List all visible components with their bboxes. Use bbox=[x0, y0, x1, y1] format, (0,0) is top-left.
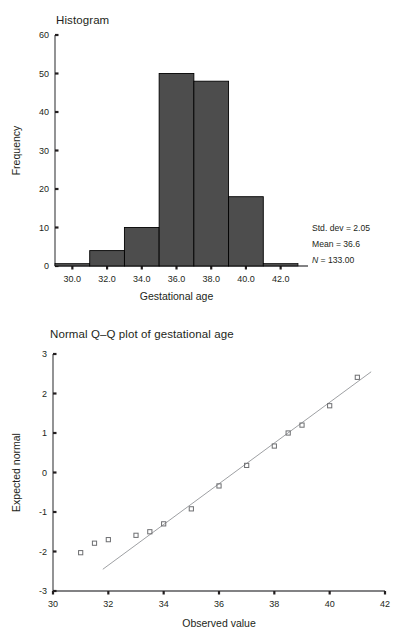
histogram-bar bbox=[159, 74, 194, 267]
qq-y-tick-label: -1 bbox=[39, 507, 47, 517]
qq-x-axis-label: Observed value bbox=[182, 617, 256, 629]
histogram-y-tick-label: 30 bbox=[39, 146, 49, 156]
qq-plot-figure: Normal Q–Q plot of gestational age 3210-… bbox=[0, 320, 409, 637]
histogram-x-tick-label: 34.0 bbox=[133, 274, 151, 284]
histogram-y-tick-label: 60 bbox=[39, 30, 49, 40]
histogram-bar bbox=[90, 251, 125, 266]
histogram-x-tick-label: 32.0 bbox=[98, 274, 116, 284]
histogram-bar bbox=[263, 264, 298, 267]
qq-y-tick-label: 1 bbox=[42, 428, 47, 438]
qq-y-tick-label: 3 bbox=[42, 349, 47, 359]
histogram-stat-mean: Mean = 36.6 bbox=[312, 239, 360, 249]
qq-y-tick-label: -2 bbox=[39, 547, 47, 557]
qq-y-axis-label: Expected normal bbox=[10, 433, 22, 512]
histogram-y-tick-label: 0 bbox=[44, 261, 49, 271]
histogram-stat-std-dev: Std. dev = 2.05 bbox=[312, 223, 370, 233]
qq-x-tick-label: 32 bbox=[103, 599, 113, 609]
histogram-x-tick-label: 38.0 bbox=[202, 274, 220, 284]
qq-x-tick-label: 38 bbox=[269, 599, 279, 609]
histogram-y-tick-label: 40 bbox=[39, 107, 49, 117]
histogram-figure: Histogram 010203040506030.032.034.036.03… bbox=[0, 0, 409, 320]
qq-x-tick-label: 30 bbox=[48, 599, 58, 609]
qq-y-tick-label: 2 bbox=[42, 389, 47, 399]
qq-plot-canvas: 3210-1-2-330323436384042Observed valueEx… bbox=[0, 320, 409, 637]
qq-data-point bbox=[79, 551, 83, 555]
qq-x-tick-label: 42 bbox=[380, 599, 390, 609]
histogram-y-tick-label: 10 bbox=[39, 223, 49, 233]
qq-x-tick-label: 40 bbox=[325, 599, 335, 609]
histogram-x-tick-label: 42.0 bbox=[272, 274, 290, 284]
histogram-canvas: 010203040506030.032.034.036.038.040.042.… bbox=[0, 0, 409, 320]
histogram-y-axis-label: Frequency bbox=[10, 125, 22, 175]
qq-data-point bbox=[355, 375, 359, 379]
qq-data-point bbox=[106, 538, 110, 542]
qq-x-tick-label: 36 bbox=[214, 599, 224, 609]
histogram-x-axis-label: Gestational age bbox=[140, 290, 214, 302]
histogram-bar bbox=[194, 81, 229, 266]
qq-data-point bbox=[328, 404, 332, 408]
qq-data-point bbox=[134, 533, 138, 537]
qq-data-point bbox=[189, 507, 193, 511]
histogram-stat-n: N = 133.00 bbox=[312, 255, 355, 265]
qq-y-tick-label: 0 bbox=[42, 468, 47, 478]
histogram-bar bbox=[124, 228, 159, 267]
qq-data-point bbox=[92, 541, 96, 545]
histogram-x-tick-label: 40.0 bbox=[237, 274, 255, 284]
histogram-x-tick-label: 36.0 bbox=[168, 274, 186, 284]
qq-reference-line bbox=[103, 372, 371, 570]
histogram-y-tick-label: 20 bbox=[39, 184, 49, 194]
qq-x-tick-label: 34 bbox=[159, 599, 169, 609]
histogram-x-tick-label: 30.0 bbox=[64, 274, 82, 284]
histogram-bar bbox=[229, 197, 264, 266]
histogram-bar bbox=[55, 264, 90, 267]
qq-y-tick-label: -3 bbox=[39, 586, 47, 596]
histogram-y-tick-label: 50 bbox=[39, 69, 49, 79]
